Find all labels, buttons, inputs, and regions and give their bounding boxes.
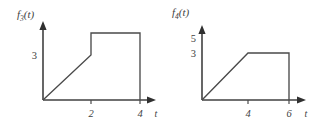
func-argument: (t): [24, 8, 35, 21]
x-tick-label-4: 4: [245, 108, 251, 119]
y-tick-label-3: 3: [32, 50, 37, 61]
chart-title-f4: f4(t): [172, 6, 190, 21]
x-tick-label-2: 2: [88, 108, 94, 119]
figure-root: f3(t) 3 2 4 t f4(t): [0, 0, 324, 129]
y-axis-arrow-icon: [39, 21, 46, 30]
y-tick-label-5: 5: [191, 33, 196, 44]
function-curve-f3: [43, 33, 140, 100]
function-curve-f4: [202, 53, 289, 100]
x-tick-label-4: 4: [137, 108, 143, 119]
y-axis-arrow-icon: [198, 25, 205, 34]
x-axis-arrow-icon: [297, 96, 306, 103]
x-axis-label-t: t: [155, 108, 158, 119]
x-axis-label-t: t: [305, 108, 308, 119]
x-axis-arrow-icon: [147, 96, 156, 103]
x-tick-label-6: 6: [286, 108, 292, 119]
chart-title-f3: f3(t): [17, 8, 35, 23]
chart-svg-f3: f3(t) 3 2 4 t: [0, 0, 162, 129]
chart-panel-f4: f4(t) 5 3 4 6 t: [162, 0, 324, 129]
func-argument: (t): [179, 6, 190, 19]
chart-panel-f3: f3(t) 3 2 4 t: [0, 0, 162, 129]
y-tick-label-3: 3: [191, 48, 196, 59]
chart-svg-f4: f4(t) 5 3 4 6 t: [162, 0, 324, 129]
